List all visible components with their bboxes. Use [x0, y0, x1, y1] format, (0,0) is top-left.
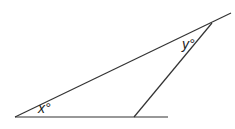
third-side	[134, 23, 212, 117]
triangle-diagram: x° y°	[0, 0, 235, 129]
y-angle-label: y°	[181, 36, 195, 52]
x-angle-label: x°	[37, 100, 51, 116]
